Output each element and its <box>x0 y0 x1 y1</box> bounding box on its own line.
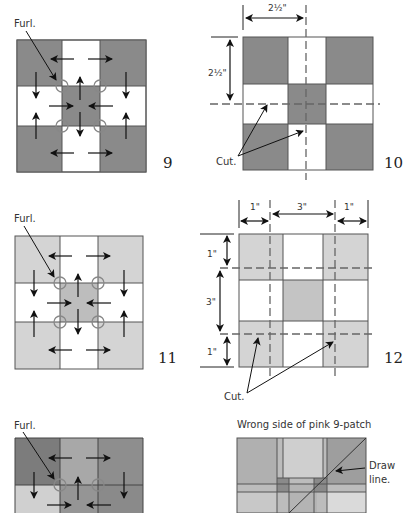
dimension-side-top: 1" <box>207 249 217 259</box>
cut-label: Cut. <box>224 391 244 402</box>
dimension-top: 2½" <box>268 3 287 13</box>
draw-label-line1: Draw <box>369 460 395 471</box>
furl-label: Furl. <box>14 420 36 431</box>
dimension-top-left: 1" <box>250 202 260 212</box>
dimension-side-bottom: 1" <box>207 347 217 357</box>
furl-label: Furl. <box>14 213 36 224</box>
diagram-12: 1" 3" 1" 1" 3" 1" Cut. 12 <box>200 200 403 402</box>
diagram-title: Wrong side of pink 9-patch <box>237 419 371 430</box>
dimension-side-middle: 3" <box>206 297 216 307</box>
diagram-9: Furl. <box>14 18 173 172</box>
draw-label-line2: line. <box>369 474 390 485</box>
step-number-12: 12 <box>384 349 403 367</box>
step-number-10: 10 <box>384 154 403 172</box>
step-number-9: 9 <box>163 154 173 172</box>
quilt-diagrams: Furl. <box>0 0 418 513</box>
diagram-14: Wrong side of pink 9-patch Draw line. <box>237 419 395 513</box>
diagram-10: 2½" 2½" Cut. 10 <box>208 3 403 180</box>
cut-label: Cut. <box>216 156 236 167</box>
diagram-11: Furl. <box>14 213 177 369</box>
diagram-13: Furl. <box>14 420 143 513</box>
dimension-side: 2½" <box>208 68 227 78</box>
step-number-11: 11 <box>158 349 177 367</box>
dimension-top-right: 1" <box>344 202 354 212</box>
furl-label: Furl. <box>14 18 36 29</box>
dimension-top-center: 3" <box>297 202 307 212</box>
